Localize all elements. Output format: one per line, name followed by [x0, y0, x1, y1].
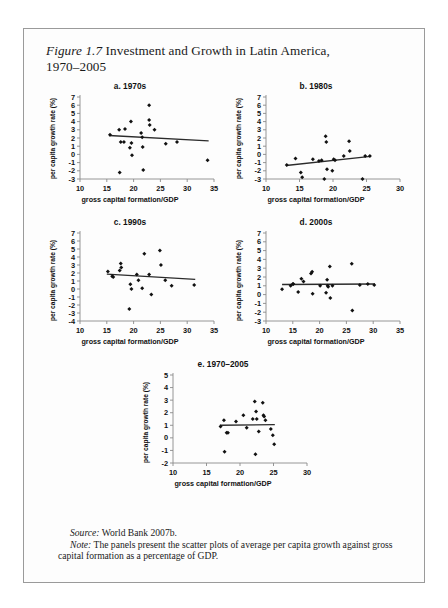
figure-number: Figure 1.7: [46, 43, 102, 58]
data-point: [330, 169, 334, 173]
data-point: [128, 146, 132, 150]
panel-d-2000s: d. 2000s-3-2-101234567101520253035gross …: [226, 217, 406, 353]
svg-text:35: 35: [210, 184, 218, 193]
y-axis-label-b: per capita growth rate (%): [235, 98, 242, 179]
data-point: [271, 433, 275, 437]
svg-text:2: 2: [257, 273, 261, 282]
figure-page: Figure 1.7 Investment and Growth in Lati…: [23, 28, 425, 583]
svg-text:-3: -3: [254, 317, 261, 326]
svg-text:3: 3: [257, 125, 261, 134]
panel-b-1980s: b. 1980s-3-2-1012345671015202530gross ca…: [226, 81, 406, 211]
svg-text:15: 15: [103, 184, 111, 193]
y-axis-label-c: per capita growth rate (%): [49, 240, 56, 321]
data-point: [117, 128, 121, 132]
data-point: [106, 269, 110, 273]
data-point: [222, 418, 226, 422]
y-axis-label-a: per capita growth rate (%): [49, 98, 56, 179]
data-point: [350, 262, 354, 266]
data-point: [163, 278, 167, 282]
data-point: [141, 168, 145, 172]
data-point: [118, 170, 122, 174]
note-line: Note: The panels present the scatter plo…: [58, 539, 410, 562]
scatter-plot-c: -4-3-2-101234567101520253035: [40, 217, 220, 353]
data-point: [158, 249, 162, 253]
data-point: [245, 426, 249, 430]
data-point: [123, 127, 127, 131]
data-point: [325, 167, 329, 171]
panel-c-1990s: c. 1990s-4-3-2-101234567101520253035gros…: [40, 217, 220, 353]
data-point: [142, 252, 146, 256]
svg-text:30: 30: [183, 326, 191, 335]
data-point: [175, 140, 179, 144]
svg-text:3: 3: [71, 261, 75, 270]
svg-text:1: 1: [71, 277, 75, 286]
svg-text:15: 15: [202, 468, 210, 477]
svg-text:6: 6: [71, 101, 75, 110]
svg-text:0: 0: [164, 433, 168, 442]
svg-text:1: 1: [257, 281, 261, 290]
data-point: [368, 154, 372, 158]
data-point: [342, 154, 346, 158]
svg-text:30: 30: [183, 184, 191, 193]
data-point: [136, 278, 140, 282]
data-point: [285, 163, 289, 167]
svg-text:-2: -2: [68, 166, 75, 175]
svg-text:5: 5: [164, 371, 168, 380]
svg-text:1: 1: [257, 142, 261, 151]
svg-text:25: 25: [362, 184, 370, 193]
svg-text:25: 25: [269, 468, 277, 477]
source-text: World Bank 2007b.: [99, 527, 176, 538]
panel-e-1970-2005: e. 1970–2005-2-10123451015202530gross ca…: [133, 359, 313, 495]
svg-text:10: 10: [169, 468, 177, 477]
data-point: [347, 139, 351, 143]
data-point: [350, 308, 354, 312]
x-axis-label-c: gross capital formation/GDP: [40, 337, 220, 346]
svg-text:0: 0: [71, 150, 75, 159]
data-point: [263, 418, 267, 422]
svg-text:1: 1: [71, 142, 75, 151]
data-point: [366, 282, 370, 286]
data-point: [130, 153, 134, 157]
data-point: [328, 264, 332, 268]
data-point: [147, 118, 151, 122]
data-point: [223, 450, 227, 454]
svg-text:0: 0: [257, 290, 261, 299]
svg-text:5: 5: [71, 245, 75, 254]
data-point: [269, 427, 273, 431]
data-point: [255, 417, 259, 421]
svg-text:-2: -2: [254, 308, 261, 317]
data-point: [139, 131, 143, 135]
svg-text:4: 4: [257, 255, 262, 264]
x-axis-label-d: gross capital formation/GDP: [226, 337, 406, 346]
svg-text:20: 20: [315, 326, 323, 335]
svg-text:15: 15: [289, 326, 297, 335]
data-point: [261, 401, 265, 405]
data-point: [192, 283, 196, 287]
svg-text:0: 0: [71, 285, 75, 294]
svg-text:25: 25: [156, 184, 164, 193]
svg-text:-3: -3: [68, 175, 75, 184]
svg-text:3: 3: [164, 396, 168, 405]
data-point: [311, 292, 315, 296]
svg-text:10: 10: [76, 184, 84, 193]
data-point: [324, 134, 328, 138]
svg-text:3: 3: [257, 264, 261, 273]
y-axis-label-d: per capita growth rate (%): [235, 240, 242, 321]
data-point: [325, 278, 329, 282]
svg-text:10: 10: [262, 184, 270, 193]
data-point: [254, 409, 258, 413]
svg-text:1: 1: [164, 421, 168, 430]
data-point: [129, 120, 133, 124]
data-point: [148, 123, 152, 127]
svg-text:6: 6: [257, 101, 261, 110]
svg-text:2: 2: [257, 134, 261, 143]
x-axis-label-b: gross capital formation/GDP: [226, 195, 406, 204]
svg-text:30: 30: [396, 184, 404, 193]
svg-text:15: 15: [103, 326, 111, 335]
svg-text:30: 30: [369, 326, 377, 335]
svg-text:6: 6: [257, 237, 261, 246]
x-axis-label-e: gross capital formation/GDP: [133, 479, 313, 488]
data-point: [324, 140, 328, 144]
data-point: [206, 158, 210, 162]
svg-text:-1: -1: [161, 446, 168, 455]
